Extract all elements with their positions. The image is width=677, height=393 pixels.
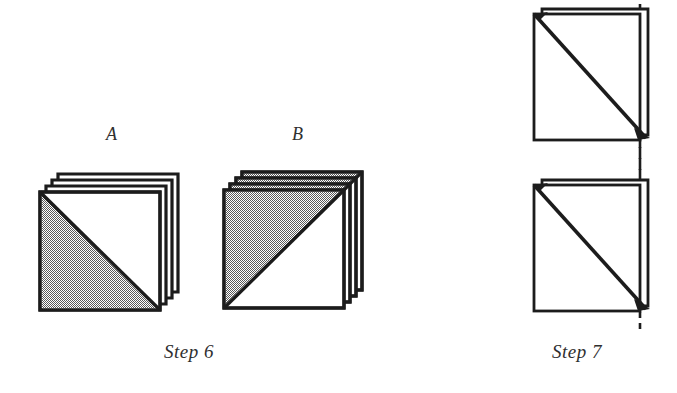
stack-b-label: B xyxy=(292,124,303,145)
stack-b-front-sheet xyxy=(224,190,344,308)
stack-a-group xyxy=(40,174,178,310)
step7-bottom-front-sheet xyxy=(534,185,646,311)
step6-caption: Step 6 xyxy=(164,341,214,363)
figure-root: A B Step 6 Step 7 xyxy=(0,0,677,393)
folding-diagram xyxy=(0,0,677,393)
step7-top-front-sheet xyxy=(534,14,646,140)
stack-b-group xyxy=(224,172,362,308)
stack-a-label: A xyxy=(106,124,117,145)
stack-a-front-sheet xyxy=(40,192,160,310)
step7-top-stack xyxy=(534,9,650,140)
step7-bottom-stack xyxy=(534,180,650,311)
step7-caption: Step 7 xyxy=(552,341,602,363)
